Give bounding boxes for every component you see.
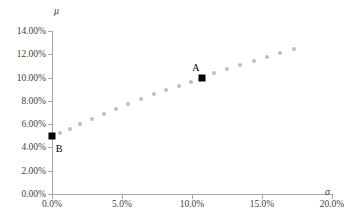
y-axis-title: μ	[54, 5, 59, 16]
data-point-label-a: A	[192, 61, 199, 72]
data-point	[292, 47, 296, 51]
data-point	[58, 131, 62, 135]
data-point	[252, 59, 256, 63]
y-tick-label: 4.00%	[21, 142, 46, 152]
data-point	[225, 67, 229, 71]
y-tick-label: 14.00%	[17, 26, 46, 36]
x-tick-label: 5.0%	[112, 199, 132, 209]
y-tick-label: 10.00%	[17, 73, 46, 83]
data-point	[90, 117, 94, 121]
y-tick-label: 2.00%	[21, 166, 46, 176]
data-point-label-b: B	[56, 142, 63, 153]
data-point	[164, 88, 168, 92]
y-tick-label: 8.00%	[21, 96, 46, 106]
data-marker-square	[49, 132, 56, 139]
data-point	[68, 127, 72, 131]
y-tick-label: 6.00%	[21, 119, 46, 129]
data-point	[212, 71, 216, 75]
y-tick-label: 12.00%	[17, 49, 46, 59]
data-point	[177, 84, 181, 88]
data-point	[139, 97, 143, 101]
data-point	[114, 107, 118, 111]
x-tick-label: 20.0%	[320, 199, 344, 209]
data-point	[265, 55, 269, 59]
x-tick-label: 10.0%	[180, 199, 205, 209]
data-point	[189, 80, 193, 84]
data-point	[278, 51, 282, 55]
data-point	[152, 92, 156, 96]
plot-area	[52, 31, 332, 194]
data-point	[126, 102, 130, 106]
data-point	[102, 112, 106, 116]
data-point	[238, 63, 242, 67]
y-tick-label: 0.00%	[21, 189, 46, 199]
x-tick-label: 15.0%	[250, 199, 275, 209]
x-tick-label: 0.0%	[42, 199, 62, 209]
data-marker-square	[198, 74, 205, 81]
data-point	[78, 122, 82, 126]
